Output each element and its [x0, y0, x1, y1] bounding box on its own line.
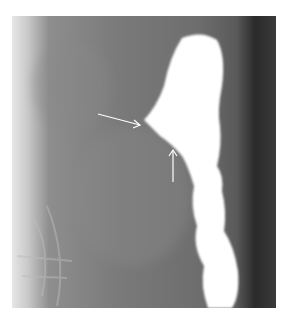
soft-tissue-shadow	[32, 41, 112, 131]
radiograph-drawing	[12, 16, 276, 308]
arrow-icon	[98, 114, 140, 128]
radiograph-image	[12, 16, 276, 308]
spine-shadow	[17, 206, 72, 306]
